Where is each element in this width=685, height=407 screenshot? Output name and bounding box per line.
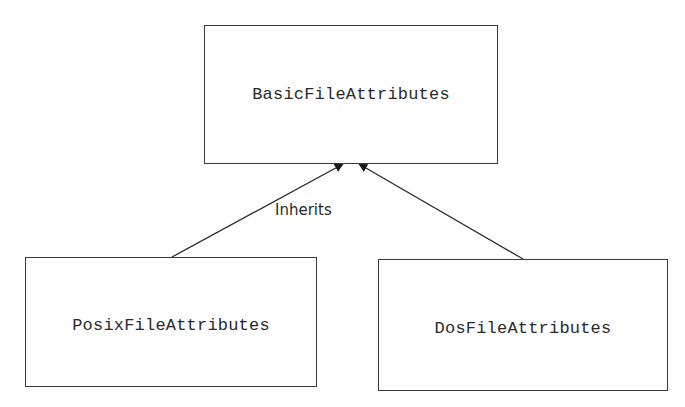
class-name: DosFileAttributes <box>435 319 612 338</box>
class-name: PosixFileAttributes <box>72 316 270 335</box>
class-box-dos-file-attributes: DosFileAttributes <box>378 259 668 391</box>
class-box-basic-file-attributes: BasicFileAttributes <box>204 25 498 164</box>
class-box-posix-file-attributes: PosixFileAttributes <box>25 257 317 387</box>
inheritance-diagram: BasicFileAttributes Inherits PosixFileAt… <box>0 0 685 407</box>
class-name: BasicFileAttributes <box>252 85 450 104</box>
edge-label-inherits: Inherits <box>275 201 332 219</box>
edge-dos-to-basic <box>359 164 523 259</box>
